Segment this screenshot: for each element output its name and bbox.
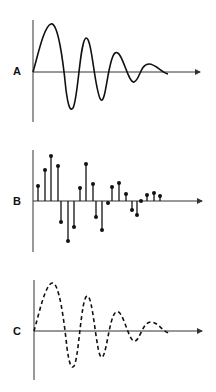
panel-b-stems [36, 154, 162, 243]
stem-dot [84, 162, 88, 166]
stem-dot [158, 194, 162, 198]
panel-a: A [13, 20, 200, 122]
panel-b-label: B [13, 195, 21, 207]
stem-dot [36, 184, 40, 188]
stem-dot [135, 213, 139, 217]
stem-dot [56, 164, 60, 168]
stem-dot [66, 239, 70, 243]
stem-dot [139, 199, 143, 203]
stem-dot [117, 181, 121, 185]
stem-dot [152, 191, 156, 195]
damped-oscillation-diagram: A B C [0, 0, 216, 392]
stem-dot [91, 182, 95, 186]
stem-dot [49, 154, 53, 158]
panel-c-label: C [13, 325, 21, 337]
stem-dot [72, 225, 76, 229]
stem-dot [106, 201, 110, 205]
panel-c: C [13, 280, 202, 380]
panel-b: B [13, 150, 202, 252]
panel-a-waveform [33, 24, 168, 109]
stem-dot [43, 168, 47, 172]
stem-dot [100, 228, 104, 232]
stem-dot [94, 215, 98, 219]
stem-dot [145, 193, 149, 197]
stem-dot [124, 192, 128, 196]
panel-a-label: A [13, 65, 21, 77]
stem-dot [110, 185, 114, 189]
panel-c-dashed-waveform [34, 283, 169, 367]
stem-dot [130, 208, 134, 212]
stem-dot [78, 186, 82, 190]
stem-dot [59, 220, 63, 224]
